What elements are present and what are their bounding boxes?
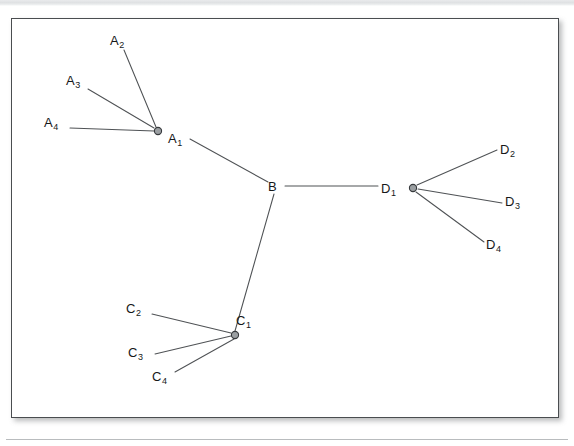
label-base: B	[268, 179, 277, 194]
label-base: D	[381, 181, 391, 196]
node-label-a1: A1	[168, 132, 182, 145]
node-label-d2: D2	[500, 143, 515, 156]
scanned-page-background	[0, 0, 574, 446]
label-base: A	[110, 33, 119, 48]
scan-artifact-bottom-rule	[6, 439, 568, 440]
label-subscript: 1	[177, 138, 182, 148]
label-subscript: 2	[136, 308, 141, 318]
scan-artifact-top-band	[0, 0, 574, 6]
label-subscript: 2	[510, 149, 515, 159]
node-label-c2: C2	[126, 302, 141, 315]
node-label-c1: C1	[236, 314, 251, 327]
node-label-c4: C4	[152, 370, 167, 383]
label-subscript: 4	[162, 376, 167, 386]
node-label-d4: D4	[486, 238, 501, 251]
label-subscript: 4	[496, 244, 501, 254]
label-subscript: 1	[246, 320, 251, 330]
label-base: D	[486, 237, 496, 252]
label-subscript: 1	[391, 188, 396, 198]
figure-frame-border	[11, 18, 559, 418]
node-label-c3: C3	[128, 346, 143, 359]
label-subscript: 3	[138, 352, 143, 362]
label-subscript: 2	[119, 40, 124, 50]
node-label-d1: D1	[381, 182, 396, 195]
label-base: C	[126, 301, 136, 316]
label-base: C	[236, 313, 246, 328]
label-subscript: 3	[515, 201, 520, 211]
node-label-a2: A2	[110, 34, 124, 47]
label-base: D	[505, 194, 515, 209]
node-label-d3: D3	[505, 195, 520, 208]
label-base: A	[168, 131, 177, 146]
node-label-b: B	[268, 180, 277, 193]
label-base: A	[66, 73, 75, 88]
node-label-a4: A4	[44, 116, 58, 129]
label-base: D	[500, 142, 510, 157]
label-base: C	[152, 369, 162, 384]
label-base: C	[128, 345, 138, 360]
label-base: A	[44, 115, 53, 130]
label-subscript: 4	[53, 122, 58, 132]
node-label-a3: A3	[66, 74, 80, 87]
label-subscript: 3	[75, 80, 80, 90]
